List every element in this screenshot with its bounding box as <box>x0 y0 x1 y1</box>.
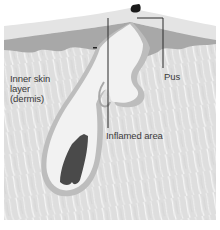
follicle-mark <box>93 47 97 49</box>
skin-diagram: Inner skin layer (dermis) Pus Inflamed a… <box>0 0 220 230</box>
skin-illustration <box>0 0 220 230</box>
pus-plug <box>131 4 141 13</box>
dermis-label: Inner skin layer (dermis) <box>10 74 50 104</box>
inflamed-area-label: Inflamed area <box>106 131 163 141</box>
pus-label: Pus <box>164 72 180 82</box>
